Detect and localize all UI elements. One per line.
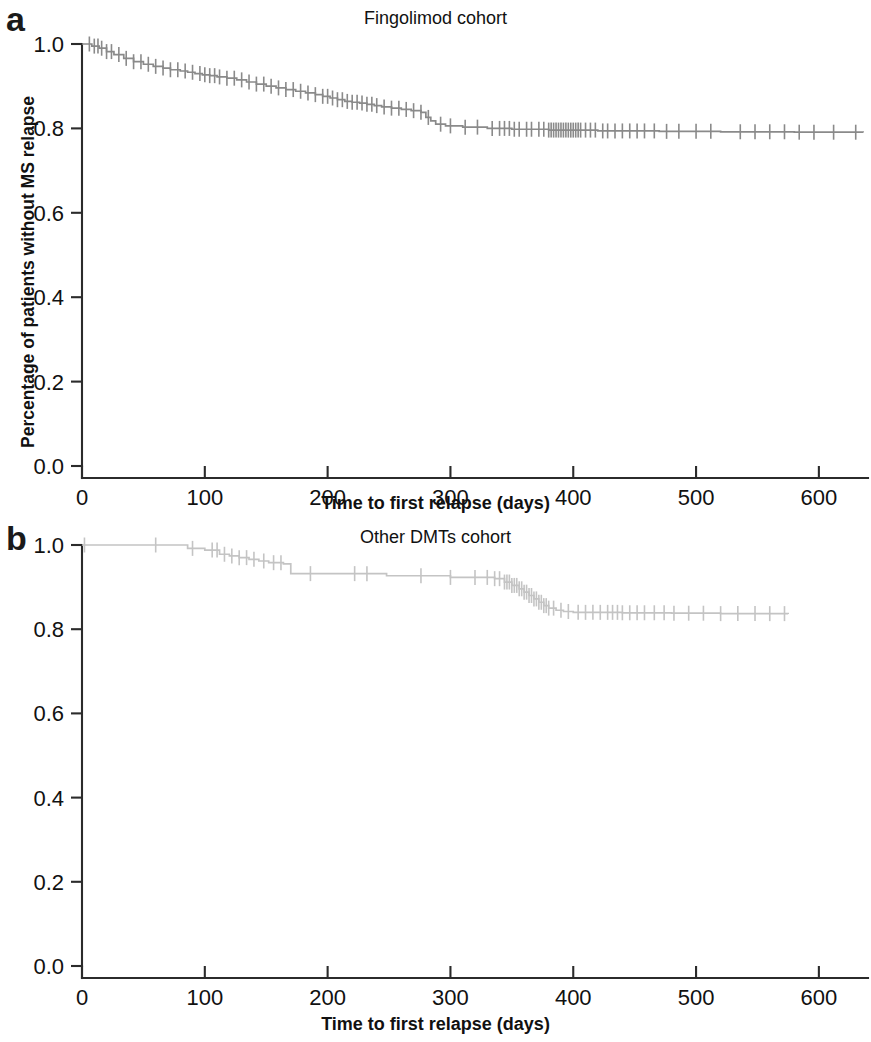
x-tick-label: 0 — [76, 985, 88, 1010]
y-tick-label: 0.0 — [33, 454, 64, 479]
y-tick-label: 0.4 — [33, 786, 64, 811]
survival-plot-b: 0.00.20.40.60.81.00100200300400500600 — [0, 521, 871, 1042]
x-tick-label: 200 — [309, 985, 346, 1010]
y-tick-label: 0.8 — [33, 617, 64, 642]
y-tick-label: 1.0 — [33, 533, 64, 558]
y-tick-label: 1.0 — [33, 32, 64, 57]
x-tick-label: 100 — [186, 985, 223, 1010]
panel-b-other-dmts: b Other DMTs cohort Percentage of patien… — [0, 521, 871, 1042]
y-tick-label: 0.6 — [33, 701, 64, 726]
x-tick-label: 600 — [801, 985, 838, 1010]
survival-curve — [82, 545, 788, 614]
y-tick-label: 0.0 — [33, 954, 64, 979]
x-tick-label: 400 — [555, 985, 592, 1010]
y-tick-label: 0.8 — [33, 116, 64, 141]
censor-marks — [84, 538, 784, 622]
survival-plot-a: 0.00.20.40.60.81.00100200300400500600 — [0, 0, 871, 521]
y-tick-label: 0.6 — [33, 201, 64, 226]
survival-curve — [82, 44, 863, 133]
x-axis-label-b: Time to first relapse (days) — [0, 1014, 871, 1035]
x-tick-label: 500 — [678, 985, 715, 1010]
panel-a-fingolimod: a Fingolimod cohort Percentage of patien… — [0, 0, 871, 521]
censor-marks — [89, 37, 855, 140]
x-axis-label-a: Time to first relapse (days) — [0, 493, 871, 514]
x-tick-label: 300 — [432, 985, 469, 1010]
y-tick-label: 0.4 — [33, 285, 64, 310]
y-tick-label: 0.2 — [33, 370, 64, 395]
y-tick-label: 0.2 — [33, 870, 64, 895]
